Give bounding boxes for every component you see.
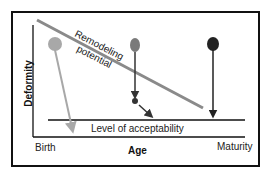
x-axis-label: Age [128, 145, 147, 156]
dark-pin [207, 37, 219, 114]
light-pin [48, 37, 72, 128]
birth-label: Birth [35, 142, 56, 153]
acceptability-label: Level of acceptability [91, 123, 184, 134]
y-axis-label: Deformity [23, 60, 34, 107]
remodeling-potential-line [37, 20, 203, 108]
medium-pin [130, 38, 150, 115]
maturity-label: Maturity [217, 141, 253, 152]
